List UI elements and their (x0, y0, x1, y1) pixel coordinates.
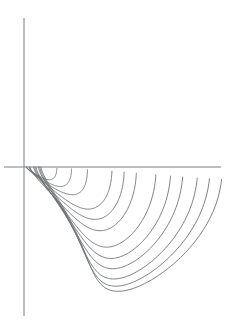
plot-background (0, 0, 237, 331)
contour-plot-svg (0, 0, 237, 331)
contour-figure (0, 0, 237, 331)
